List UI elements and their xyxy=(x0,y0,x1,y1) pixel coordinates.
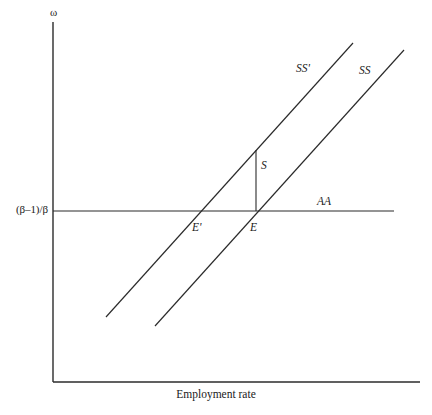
ss-prime-curve-label: SS' xyxy=(296,63,310,75)
shift-segment-label: S xyxy=(261,160,267,172)
ss-curve-label: SS xyxy=(359,65,371,77)
ss-prime-curve xyxy=(106,43,353,317)
y-axis-tick-label: (β–1)/β xyxy=(16,204,48,215)
economics-figure: ω (β–1)/β SS' SS AA S E' E Employment ra… xyxy=(0,0,432,415)
y-axis-label: ω xyxy=(50,7,57,18)
aa-line-label: AA xyxy=(317,196,331,208)
figure-canvas xyxy=(0,0,432,415)
equilibrium-e-label: E xyxy=(250,222,257,234)
equilibrium-e-prime-label: E' xyxy=(192,222,201,234)
x-axis-title: Employment rate xyxy=(0,389,432,401)
ss-curve xyxy=(155,50,404,326)
